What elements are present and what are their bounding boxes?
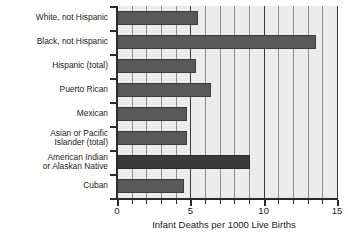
x-axis-spine [116,198,338,200]
category-label: Cuban [0,181,108,190]
category-label: Hispanic (total) [0,61,108,70]
y-axis-tick [110,30,116,32]
x-axis-minor-tick [146,200,147,204]
y-axis-tick [110,126,116,128]
major-gridline [337,6,338,198]
y-axis-tick [110,174,116,176]
x-axis-minor-tick [278,200,279,204]
y-axis-tick [110,198,116,200]
y-axis-spine [116,6,118,199]
x-axis-title: Infant Deaths per 1000 Live Births [0,219,348,230]
x-axis-minor-tick [322,200,323,204]
x-axis-minor-tick [308,200,309,204]
category-label: Puerto Rican [0,85,108,94]
x-axis-tick-label: 15 [322,205,348,216]
bar [117,131,187,145]
x-axis-minor-tick [161,200,162,204]
bar [117,11,198,25]
category-axis: White, not HispanicBlack, not HispanicHi… [0,6,112,198]
x-axis-minor-tick [205,200,206,204]
x-axis-title-label: Infant Deaths per 1000 Live Births [52,219,296,230]
infant-mortality-bar-chart: White, not HispanicBlack, not HispanicHi… [0,0,348,237]
plot-area [117,6,337,198]
y-axis-tick [110,78,116,80]
bar [117,59,196,73]
bar [117,83,211,97]
category-label: Asian or Pacific Islander (total) [0,129,108,148]
y-axis-tick [110,102,116,104]
category-label: White, not Hispanic [0,13,108,22]
bar [117,107,187,121]
x-axis-tick-label: 10 [249,205,279,216]
category-label: American Indian or Alaskan Native [0,153,108,172]
minor-gridline [322,6,323,198]
bar [117,179,184,193]
y-axis-tick [110,54,116,56]
x-axis-minor-tick [220,200,221,204]
x-axis-minor-tick [176,200,177,204]
y-axis-tick [110,150,116,152]
y-axis-tick [110,6,116,8]
x-axis-minor-tick [132,200,133,204]
category-label: Black, not Hispanic [0,37,108,46]
x-axis-tick-label: 5 [175,205,205,216]
category-label: Mexican [0,109,108,118]
x-axis-minor-tick [293,200,294,204]
x-axis-minor-tick [234,200,235,204]
bar [117,155,250,169]
x-axis-tick-label: 0 [102,205,132,216]
bar [117,35,316,49]
x-axis-minor-tick [249,200,250,204]
